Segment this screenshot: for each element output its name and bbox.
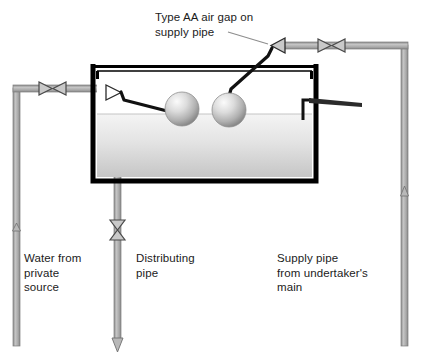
ball-float-left bbox=[165, 92, 199, 126]
gate-valve-private-icon bbox=[39, 82, 66, 95]
plumbing-schematic bbox=[0, 0, 421, 358]
storage-cistern bbox=[93, 64, 316, 181]
flow-arrow-down-icon bbox=[112, 338, 123, 352]
label-supply-pipe: Supply pipe from undertaker's main bbox=[277, 251, 368, 295]
air-gap-discharge-valve-icon bbox=[271, 38, 285, 53]
diagram-canvas: Type AA air gap on supply pipe Water fro… bbox=[0, 0, 421, 358]
distributing-pipe bbox=[112, 168, 123, 352]
gate-valve-distributing-icon bbox=[110, 220, 125, 240]
ball-float-right bbox=[212, 93, 246, 127]
label-distributing-pipe: Distributing pipe bbox=[136, 251, 195, 280]
label-private-source: Water from private source bbox=[24, 251, 81, 295]
label-air-gap: Type AA air gap on supply pipe bbox=[155, 10, 253, 39]
gate-valve-supply-icon bbox=[318, 39, 345, 52]
